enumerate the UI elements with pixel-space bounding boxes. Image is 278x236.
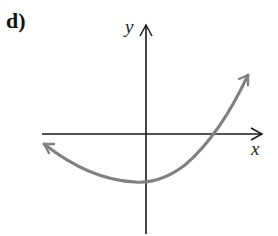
coordinate-graph [0, 0, 278, 236]
x-axis [42, 128, 262, 140]
y-axis [140, 25, 152, 234]
y-axis-label: y [125, 16, 133, 38]
x-axis-label: x [251, 138, 259, 160]
